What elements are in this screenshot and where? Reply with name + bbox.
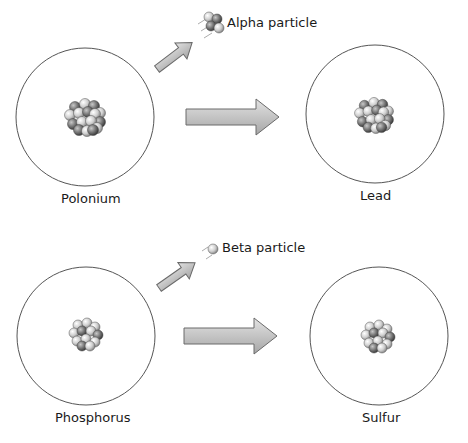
lead-atom (306, 45, 444, 183)
sulfur-label: Sulfur (362, 410, 400, 425)
alpha-particle-icon (198, 12, 224, 38)
polonium-atom (16, 48, 154, 186)
beta-particle-icon (202, 244, 218, 259)
beta-particle-label: Beta particle (222, 240, 305, 255)
beta-emission-arrow (153, 255, 201, 297)
phosphorus-atom (17, 267, 155, 405)
polonium-label: Polonium (61, 191, 121, 206)
decay-arrow-beta (184, 318, 277, 354)
sulfur-atom (310, 267, 448, 405)
lead-label: Lead (360, 188, 391, 203)
alpha-particle-label: Alpha particle (227, 15, 317, 30)
radioactive-decay-diagram (0, 0, 468, 443)
alpha-emission-arrow (151, 35, 198, 77)
decay-arrow-alpha (186, 99, 279, 135)
phosphorus-label: Phosphorus (55, 410, 131, 425)
